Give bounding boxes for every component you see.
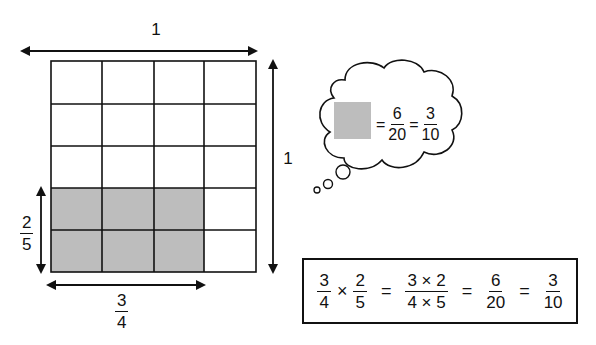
thought-bubble-medium — [324, 180, 333, 189]
equation-box: 3 4 × 2 5 = 3 × 2 4 × 5 = 6 20 = 3 10 — [302, 258, 578, 324]
equals-sign: = — [406, 116, 421, 134]
thought-shaded-square — [334, 102, 371, 139]
thought-bubble-large — [336, 165, 350, 179]
equals-sign: = — [505, 281, 544, 302]
fraction-numerator: 6 — [391, 106, 404, 125]
fraction-numerator: 3 × 2 — [405, 272, 447, 292]
term-three-quarters: 3 4 — [317, 272, 330, 311]
fraction-denominator: 10 — [421, 125, 439, 143]
simplified-fraction: 3 10 — [544, 272, 563, 311]
thought-bubble-small — [314, 187, 320, 193]
fraction-denominator: 5 — [355, 292, 364, 311]
equals-sign: = — [448, 281, 487, 302]
fraction-denominator: 10 — [544, 292, 563, 311]
fraction-numerator: 6 — [489, 272, 502, 292]
bottom-shaded-width-fraction: 3 4 — [115, 292, 128, 331]
result-fraction: 6 20 — [486, 272, 505, 311]
right-height-label: 1 — [280, 150, 296, 167]
times-sign: × — [331, 281, 354, 302]
fraction-denominator: 4 — [117, 312, 126, 331]
fraction-denominator: 20 — [486, 292, 505, 311]
fraction-denominator: 20 — [388, 125, 406, 143]
fraction-denominator: 4 — [319, 292, 328, 311]
fraction-denominator: 4 × 5 — [407, 292, 445, 311]
fraction-numerator: 3 — [115, 292, 128, 312]
left-shaded-height-fraction: 2 5 — [20, 214, 33, 253]
equals-sign: = — [367, 281, 406, 302]
thought-fraction-3-10: 3 10 — [421, 106, 439, 143]
product-fraction: 3 × 2 4 × 5 — [405, 272, 447, 311]
thought-equation: = 6 20 = 3 10 — [373, 106, 439, 143]
fraction-numerator: 2 — [353, 272, 366, 292]
fraction-numerator: 3 — [546, 272, 559, 292]
top-width-label: 1 — [146, 21, 166, 38]
fraction-numerator: 2 — [20, 214, 33, 234]
fraction-denominator: 5 — [22, 234, 31, 253]
fraction-numerator: 3 — [424, 106, 437, 125]
equals-sign: = — [373, 116, 388, 134]
term-two-fifths: 2 5 — [353, 272, 366, 311]
fraction-numerator: 3 — [317, 272, 330, 292]
thought-fraction-6-20: 6 20 — [388, 106, 406, 143]
